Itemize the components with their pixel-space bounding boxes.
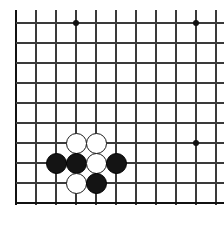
grid-line-vertical-2 bbox=[55, 10, 57, 205]
star-point-hoshi-1 bbox=[193, 20, 199, 26]
go-board-diagram bbox=[0, 0, 224, 231]
grid-line-vertical-10 bbox=[215, 10, 217, 205]
grid-line-vertical-5 bbox=[115, 10, 117, 205]
star-point-hoshi-2 bbox=[193, 140, 199, 146]
grid-line-horizontal-3 bbox=[16, 82, 224, 84]
white-stone[interactable] bbox=[86, 133, 107, 154]
grid-line-vertical-7 bbox=[155, 10, 157, 205]
grid-line-vertical-8 bbox=[175, 10, 177, 205]
grid-line-horizontal-2 bbox=[16, 62, 224, 64]
grid-line-vertical-0 bbox=[15, 10, 18, 205]
grid-line-horizontal-5 bbox=[16, 122, 224, 124]
grid-line-horizontal-4 bbox=[16, 102, 224, 104]
white-stone[interactable] bbox=[66, 173, 87, 194]
star-point-hoshi-0 bbox=[73, 20, 79, 26]
black-stone[interactable] bbox=[66, 153, 87, 174]
black-stone[interactable] bbox=[86, 173, 107, 194]
grid-line-horizontal-9 bbox=[16, 202, 224, 205]
white-stone[interactable] bbox=[86, 153, 107, 174]
grid-line-vertical-6 bbox=[135, 10, 137, 205]
grid-line-horizontal-1 bbox=[16, 42, 224, 44]
black-stone[interactable] bbox=[46, 153, 67, 174]
grid-line-horizontal-8 bbox=[16, 182, 224, 184]
white-stone[interactable] bbox=[66, 133, 87, 154]
black-stone[interactable] bbox=[106, 153, 127, 174]
grid-line-vertical-9 bbox=[195, 10, 197, 205]
goban-grid[interactable] bbox=[0, 0, 224, 231]
grid-line-vertical-1 bbox=[35, 10, 37, 205]
